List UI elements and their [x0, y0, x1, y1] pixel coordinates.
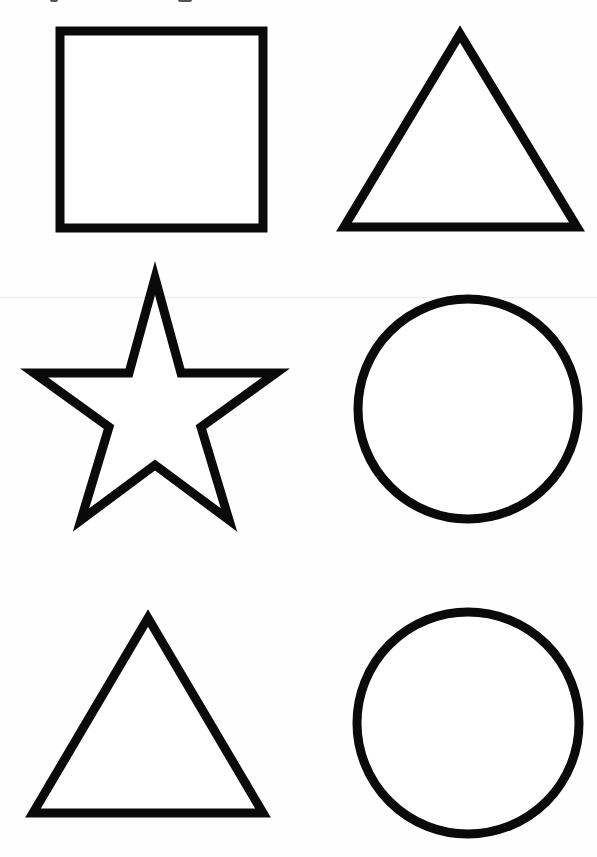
triangle-shape-top [344, 34, 577, 227]
triangle-shape-bottom [33, 618, 263, 813]
square-shape [60, 31, 263, 228]
circle-shape-middle [358, 299, 578, 519]
shapes-canvas [0, 0, 597, 857]
circle-shape-bottom [357, 612, 579, 834]
star-shape [34, 278, 276, 520]
worksheet-page [0, 0, 597, 857]
